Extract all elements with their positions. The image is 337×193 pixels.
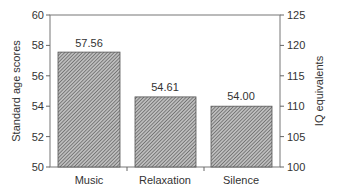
value-label-silence: 54.00 xyxy=(227,90,255,102)
bar-chart: 57.56 54.61 54.00 50 52 54 56 58 60 100 … xyxy=(0,0,337,193)
left-tick-label: 52 xyxy=(32,131,44,143)
value-label-relaxation: 54.61 xyxy=(151,81,179,93)
left-tick-label: 58 xyxy=(32,39,44,51)
bar-music xyxy=(58,52,120,167)
x-axis-ticks xyxy=(127,167,204,171)
x-axis-category-labels: Music Relaxation Silence xyxy=(75,174,259,186)
bar-relaxation xyxy=(135,97,196,167)
bars xyxy=(58,52,272,167)
right-axis-ticks xyxy=(280,15,284,167)
category-label-silence: Silence xyxy=(223,174,259,186)
left-axis-tick-labels: 50 52 54 56 58 60 xyxy=(32,9,44,173)
bar-silence xyxy=(211,106,272,167)
right-tick-label: 115 xyxy=(287,70,305,82)
left-axis-title: Standard age scores xyxy=(10,40,22,142)
right-tick-label: 110 xyxy=(287,100,305,112)
left-tick-label: 54 xyxy=(32,100,44,112)
category-label-relaxation: Relaxation xyxy=(139,174,191,186)
right-axis-tick-labels: 100 105 110 115 120 125 xyxy=(287,9,305,173)
category-label-music: Music xyxy=(75,174,104,186)
left-tick-label: 56 xyxy=(32,70,44,82)
right-axis-title: IQ equivalents xyxy=(313,55,325,126)
right-tick-label: 125 xyxy=(287,9,305,21)
right-tick-label: 120 xyxy=(287,39,305,51)
right-tick-label: 100 xyxy=(287,161,305,173)
left-tick-label: 60 xyxy=(32,9,44,21)
right-tick-label: 105 xyxy=(287,131,305,143)
left-axis-ticks xyxy=(46,15,50,167)
value-label-music: 57.56 xyxy=(75,37,103,49)
left-tick-label: 50 xyxy=(32,161,44,173)
